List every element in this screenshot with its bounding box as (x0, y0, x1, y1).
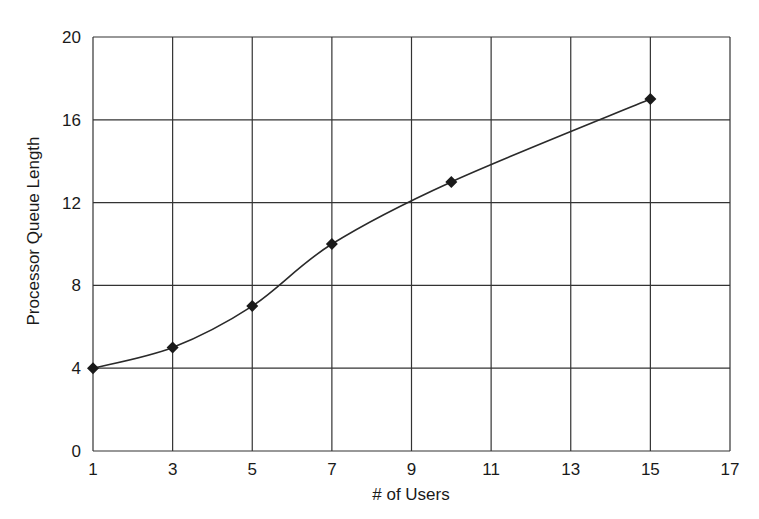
y-axis-label: Processor Queue Length (24, 136, 43, 325)
diamond-marker-icon (87, 362, 99, 374)
y-tick-label: 4 (72, 359, 81, 378)
data-line (93, 99, 650, 368)
grid-lines (93, 37, 730, 451)
diamond-marker-icon (326, 238, 338, 250)
diamond-marker-icon (445, 176, 457, 188)
y-tick-label: 0 (72, 442, 81, 461)
x-tick-label: 7 (327, 460, 336, 479)
x-tick-label: 5 (248, 460, 257, 479)
x-tick-label: 17 (721, 460, 740, 479)
x-tick-label: 1 (88, 460, 97, 479)
line-chart: 048121620 1357911131517 # of Users Proce… (0, 0, 759, 519)
x-tick-label: 11 (482, 460, 500, 479)
x-tick-label: 13 (561, 460, 580, 479)
x-tick-label: 3 (168, 460, 177, 479)
y-tick-label: 12 (62, 194, 81, 213)
x-tick-label: 9 (407, 460, 416, 479)
y-tick-label: 8 (72, 276, 81, 295)
y-tick-label: 16 (62, 111, 81, 130)
diamond-marker-icon (644, 93, 656, 105)
x-axis-ticks: 1357911131517 (88, 460, 739, 479)
diamond-marker-icon (167, 342, 179, 354)
diamond-marker-icon (246, 300, 258, 312)
x-axis-label: # of Users (372, 485, 449, 504)
y-tick-label: 20 (62, 28, 81, 47)
x-tick-label: 15 (641, 460, 660, 479)
y-axis-ticks: 048121620 (62, 28, 81, 461)
